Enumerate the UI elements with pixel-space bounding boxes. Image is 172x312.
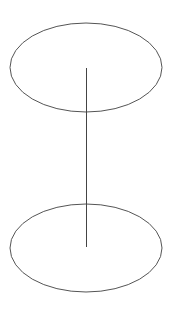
diagram-canvas bbox=[0, 0, 172, 312]
figure-svg bbox=[0, 0, 172, 312]
